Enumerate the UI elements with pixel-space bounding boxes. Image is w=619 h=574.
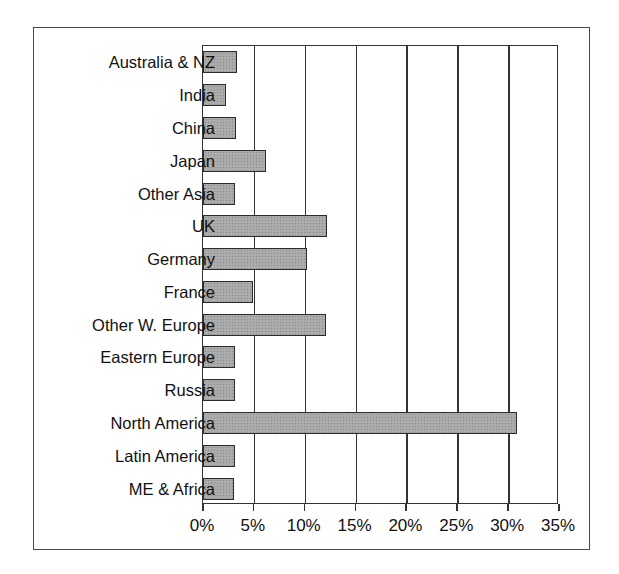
category-label: Germany — [63, 251, 223, 268]
axis-tick-label: 20% — [388, 517, 422, 534]
axis-tick — [507, 504, 509, 511]
axis-tick-label: 5% — [241, 517, 266, 534]
axis-tick-label: 10% — [287, 517, 321, 534]
chart-row: Germany — [34, 242, 589, 277]
chart-row: Other Asia — [34, 176, 589, 211]
category-label: Other W. Europe — [63, 317, 223, 334]
chart-row: ME & Africa — [34, 471, 589, 506]
category-label: India — [63, 87, 223, 104]
category-label: UK — [63, 218, 223, 235]
chart-row: UK — [34, 209, 589, 244]
chart-row: Eastern Europe — [34, 340, 589, 375]
category-label: Eastern Europe — [63, 349, 223, 366]
chart-plot-wrapper: Australia & NZIndiaChinaJapanOther AsiaU… — [34, 28, 589, 549]
category-label: France — [63, 284, 223, 301]
chart-row: Japan — [34, 143, 589, 178]
category-label: ME & Africa — [63, 481, 223, 498]
category-label: Latin America — [63, 448, 223, 465]
category-label: Japan — [63, 153, 223, 170]
axis-tick — [202, 504, 204, 511]
axis-tick — [558, 504, 560, 511]
axis-tick-label: 15% — [338, 517, 372, 534]
axis-tick-label: 0% — [190, 517, 215, 534]
axis-tick-label: 25% — [439, 517, 473, 534]
axis-tick — [304, 504, 306, 511]
chart-row: India — [34, 78, 589, 113]
chart-row: Russia — [34, 373, 589, 408]
category-label: Other Asia — [63, 186, 223, 203]
axis-tick — [253, 504, 255, 511]
chart-row: North America — [34, 406, 589, 441]
axis-tick — [355, 504, 357, 511]
chart-row: China — [34, 111, 589, 146]
chart-row: France — [34, 275, 589, 310]
category-label: North America — [63, 415, 223, 432]
axis-tick-label: 35% — [541, 517, 575, 534]
category-label: China — [63, 120, 223, 137]
chart-frame: Australia & NZIndiaChinaJapanOther AsiaU… — [33, 27, 590, 550]
axis-tick — [456, 504, 458, 511]
chart-row: Other W. Europe — [34, 307, 589, 342]
category-label: Australia & NZ — [63, 54, 223, 71]
chart-row: Latin America — [34, 438, 589, 473]
category-label: Russia — [63, 382, 223, 399]
axis-tick — [405, 504, 407, 511]
chart-row: Australia & NZ — [34, 45, 589, 80]
axis-tick-label: 30% — [490, 517, 524, 534]
